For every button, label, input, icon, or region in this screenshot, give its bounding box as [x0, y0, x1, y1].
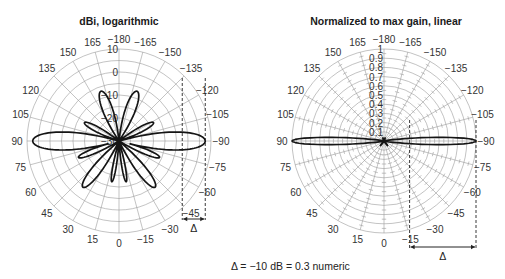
- spoke-tick: [435, 169, 437, 173]
- delta-caption: Δ = −10 dB = 0.3 numeric: [231, 260, 350, 272]
- spoke-tick: [357, 184, 361, 186]
- angle-label: −180: [373, 34, 396, 45]
- spoke-tick: [398, 112, 402, 114]
- angle-label: −90: [213, 136, 230, 147]
- spoke-tick: [459, 183, 461, 187]
- spoke-tick: [363, 128, 365, 132]
- angle-label: −150: [424, 47, 447, 58]
- spoke-tick: [357, 96, 361, 98]
- spoke-tick: [407, 96, 411, 98]
- polar-charts: dBi, logarithmic Normalized to max gain,…: [0, 0, 505, 279]
- angle-label: −120: [196, 85, 219, 96]
- spoke-tick: [403, 128, 405, 132]
- spoke-tick: [417, 200, 421, 202]
- angle-label: 0: [116, 238, 122, 249]
- angle-label: −105: [206, 109, 229, 120]
- angle-label: 75: [15, 162, 27, 173]
- spoke-tick: [412, 88, 416, 90]
- angle-label: −120: [461, 85, 484, 96]
- arrow-head-left: [411, 245, 415, 249]
- spoke-tick: [451, 178, 453, 182]
- spoke-tick: [331, 109, 333, 113]
- spoke-tick: [459, 95, 461, 99]
- angle-label: −45: [448, 208, 465, 219]
- right-chart-title: Normalized to max gain, linear: [310, 15, 462, 27]
- spoke-tick: [339, 114, 341, 118]
- spoke-tick: [417, 80, 421, 82]
- spoke-tick: [339, 164, 341, 168]
- spoke-tick: [355, 155, 357, 159]
- angle-label: 60: [25, 187, 37, 198]
- spoke-tick: [426, 64, 430, 66]
- spoke-tick: [366, 168, 370, 170]
- spoke-tick: [419, 160, 421, 164]
- angle-label: −60: [199, 187, 216, 198]
- spoke-tick: [412, 192, 416, 194]
- spoke-tick: [347, 160, 349, 164]
- angle-label: −90: [478, 136, 495, 147]
- spoke-tick: [307, 95, 309, 99]
- delta-label: Δ: [439, 250, 446, 262]
- spoke-tick: [361, 176, 365, 178]
- spoke-tick: [419, 118, 421, 122]
- spoke-tick: [348, 80, 352, 82]
- spoke-tick: [323, 174, 325, 178]
- angle-label: 60: [290, 187, 302, 198]
- angle-label: 15: [87, 234, 99, 245]
- angle-label: −45: [183, 208, 200, 219]
- angle-label: 165: [349, 37, 366, 48]
- angle-label: −135: [445, 63, 468, 74]
- angle-label: −75: [209, 162, 226, 173]
- delta-label: Δ: [190, 222, 197, 234]
- spoke-tick: [421, 72, 425, 74]
- spoke-tick: [443, 174, 445, 178]
- spoke-tick: [352, 192, 356, 194]
- angle-label: 150: [325, 47, 342, 58]
- right-polar-chart: −180−165−150−135−120−105−90−75−60−45−30−…: [276, 34, 494, 249]
- spoke-tick: [338, 216, 342, 218]
- spoke-tick: [403, 151, 405, 155]
- spoke-tick: [338, 64, 342, 66]
- radial-label: 0.1: [369, 127, 383, 138]
- spoke-tick: [421, 208, 425, 210]
- spoke-tick: [435, 109, 437, 113]
- angle-label: 120: [287, 85, 304, 96]
- radial-label: 10: [107, 44, 119, 55]
- spoke-tick: [371, 160, 375, 162]
- angle-label: −30: [162, 224, 179, 235]
- spoke-tick: [426, 216, 430, 218]
- spoke-tick: [347, 118, 349, 122]
- spoke-tick: [427, 164, 429, 168]
- spoke-tick: [427, 114, 429, 118]
- angle-label: 45: [306, 208, 318, 219]
- angle-label: 135: [304, 63, 321, 74]
- spoke-tick: [411, 155, 413, 159]
- angle-label: −165: [134, 37, 157, 48]
- angle-label: −150: [159, 47, 182, 58]
- angle-label: 105: [277, 109, 294, 120]
- spoke-tick: [315, 178, 317, 182]
- spoke-tick: [363, 151, 365, 155]
- spoke-tick: [343, 72, 347, 74]
- angle-label: 105: [12, 109, 29, 120]
- spoke-tick: [307, 183, 309, 187]
- angle-label: −165: [399, 37, 422, 48]
- spoke-tick: [343, 208, 347, 210]
- angle-label: 15: [352, 234, 364, 245]
- spoke-tick: [315, 100, 317, 104]
- spoke-tick: [331, 169, 333, 173]
- angle-label: −60: [464, 187, 481, 198]
- angle-label: −135: [180, 63, 203, 74]
- spoke-tick: [348, 200, 352, 202]
- angle-label: 90: [276, 136, 288, 147]
- angle-label: −15: [137, 234, 154, 245]
- angle-label: −15: [402, 234, 419, 245]
- angle-label: 0: [381, 238, 387, 249]
- spoke-tick: [323, 105, 325, 109]
- grid-spoke: [119, 95, 199, 141]
- angle-label: −105: [471, 109, 494, 120]
- angle-label: −180: [108, 34, 131, 45]
- spoke-tick: [403, 176, 407, 178]
- spoke-tick: [398, 168, 402, 170]
- spoke-tick: [352, 88, 356, 90]
